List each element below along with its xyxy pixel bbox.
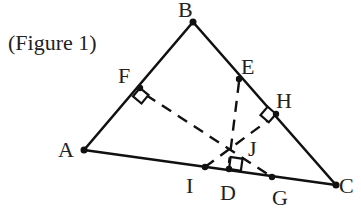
label-f: F <box>118 63 130 88</box>
label-c: C <box>339 173 354 198</box>
label-e: E <box>241 54 254 79</box>
geometry-figure: (Figure 1) A B C D E F G H I J <box>0 0 361 215</box>
label-d: D <box>220 180 236 205</box>
label-g: G <box>272 185 288 210</box>
point-d <box>226 166 232 172</box>
label-h: H <box>276 88 292 113</box>
point-g <box>269 174 275 180</box>
point-f <box>137 85 143 91</box>
point-a <box>81 147 88 154</box>
side-bc <box>193 22 336 185</box>
label-b: B <box>178 0 193 22</box>
side-ca <box>84 150 336 185</box>
label-j: J <box>248 136 257 161</box>
label-a: A <box>58 137 74 162</box>
label-i: I <box>186 173 193 198</box>
point-i <box>202 164 208 170</box>
figure-caption: (Figure 1) <box>8 30 97 55</box>
